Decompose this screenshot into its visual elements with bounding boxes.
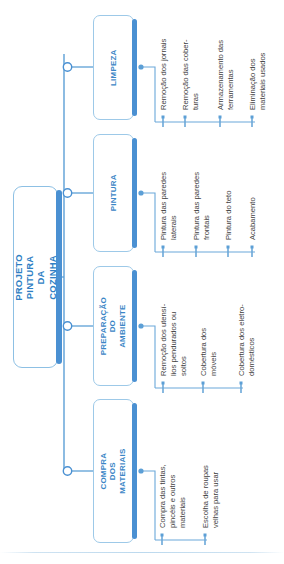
leaf-label: Cobertura dos eletro- domésticos bbox=[237, 246, 257, 376]
branch-node-compra-dos-materiais[interactable]: COMPRA DOS MATERIAIS bbox=[93, 399, 134, 543]
leaf-label: Pintura das paredes laterais bbox=[159, 118, 179, 240]
leaf-label: Armazenamento das ferramentas bbox=[216, 0, 236, 110]
branch-3-marker-1 bbox=[184, 116, 187, 119]
junction-circle-0 bbox=[63, 467, 71, 475]
branch-node-pintura[interactable]: PINTURA bbox=[93, 134, 134, 252]
branch-node-accent-bar bbox=[132, 138, 137, 248]
branch-node-accent-bar bbox=[132, 270, 137, 382]
branch-node-label: PINTURA bbox=[109, 175, 118, 212]
leaf-label: Remoção dos jornais bbox=[159, 0, 169, 110]
branch-0-riser bbox=[142, 471, 155, 540]
leaf-label: Pintura do teto bbox=[224, 118, 234, 240]
branch-3-dot bbox=[138, 64, 143, 69]
branch-3-marker-2 bbox=[219, 116, 222, 119]
branch-node-accent-bar bbox=[132, 19, 137, 116]
junction-circle-1 bbox=[63, 322, 71, 330]
bottom-divider bbox=[0, 552, 284, 553]
branch-1-marker-2 bbox=[240, 382, 243, 385]
leaf-label: Eliminação dos materiais usados bbox=[248, 0, 268, 110]
leaf-label: Remoção das cober- turas bbox=[181, 0, 201, 110]
branch-node-label: PREPARAÇÃO DO AMBIENTE bbox=[99, 297, 127, 355]
branch-3-riser bbox=[142, 67, 155, 122]
branch-2-dot bbox=[138, 190, 143, 195]
branch-2-riser bbox=[142, 193, 155, 252]
branch-node-label: LIMPEZA bbox=[109, 49, 118, 86]
leaf-label: Cobertura dos móveis bbox=[199, 246, 219, 376]
diagram-canvas: PROJETO PINTURA DA COZINHA COMPRA DOS MA… bbox=[0, 0, 284, 564]
leaf-label: Escolha de roupas velhas para usar bbox=[201, 398, 221, 528]
root-node[interactable]: PROJETO PINTURA DA COZINHA bbox=[13, 186, 58, 368]
branch-1-riser bbox=[142, 326, 155, 388]
branch-node-accent-bar bbox=[132, 403, 137, 539]
branch-0-dot bbox=[138, 468, 143, 473]
branch-node-preparacao-do-ambiente[interactable]: PREPARAÇÃO DO AMBIENTE bbox=[93, 266, 134, 386]
branch-1-dot bbox=[138, 323, 143, 328]
branch-2-marker-2 bbox=[227, 246, 230, 249]
junction-circle-2 bbox=[63, 189, 71, 197]
branch-node-limpeza[interactable]: LIMPEZA bbox=[93, 15, 134, 120]
leaf-label: Remoção dos utensí- lios pendurados ou s… bbox=[159, 246, 189, 376]
leaf-label: Compra das tintas, pincéis e outros mate… bbox=[158, 398, 188, 528]
junction-circle-3 bbox=[63, 63, 71, 71]
root-node-label: PROJETO PINTURA DA COZINHA bbox=[13, 254, 58, 301]
branch-1-marker-0 bbox=[162, 382, 165, 385]
leaf-label: Acabamento bbox=[248, 118, 258, 240]
branch-1-marker-1 bbox=[202, 382, 205, 385]
branch-0-marker-1 bbox=[204, 534, 207, 537]
branch-2-marker-1 bbox=[195, 246, 198, 249]
branch-0-marker-0 bbox=[161, 534, 164, 537]
leaf-label: Pintura das paredes frontais bbox=[192, 118, 212, 240]
branch-node-label: COMPRA DOS MATERIAIS bbox=[99, 448, 127, 493]
